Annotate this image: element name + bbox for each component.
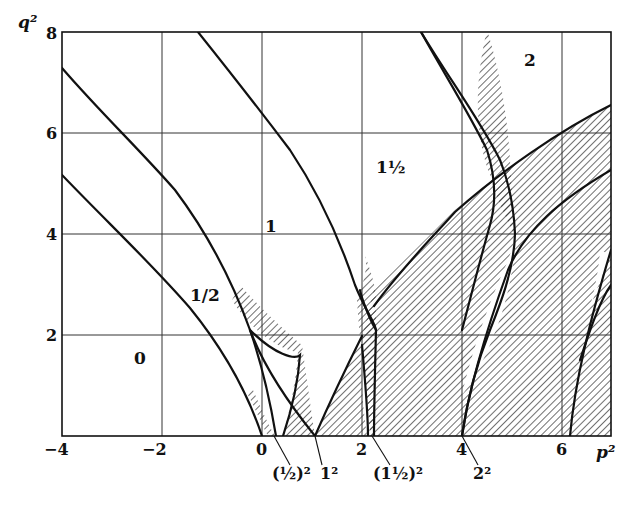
marker-1-squared: 1²	[320, 466, 338, 482]
x-axis-title: p²	[596, 444, 615, 461]
chart-canvas	[0, 0, 641, 506]
marker-1-5-squared: (1½)²	[373, 466, 423, 482]
region-label-half: 1/2	[190, 287, 220, 304]
y-tick-4: 4	[46, 227, 57, 243]
x-tick-6: 6	[556, 442, 567, 458]
region-label-1: 1	[265, 218, 277, 235]
x-tick-4: 4	[456, 442, 467, 458]
x-tick-neg2: −2	[142, 442, 167, 458]
x-tick-2: 2	[356, 442, 367, 458]
unstable-wedge-main	[315, 105, 611, 436]
marker-leaders	[274, 436, 478, 465]
y-axis-title: q²	[18, 14, 37, 31]
y-tick-2: 2	[46, 328, 57, 344]
region-label-0: 0	[134, 350, 146, 367]
marker-2-squared: 2²	[473, 466, 491, 482]
region-label-2: 2	[524, 52, 536, 69]
x-tick-neg4: −4	[44, 442, 69, 458]
y-tick-8: 8	[46, 26, 57, 42]
marker-half-squared: (½)²	[272, 466, 311, 482]
unstable-regions	[232, 30, 611, 436]
region-label-1-5: 1½	[376, 159, 406, 176]
curve-half	[62, 68, 276, 436]
stability-chart: q² 8 6 4 2 −4 −2 0 2 4 6 p² 0 1/2 1 1½ 2…	[0, 0, 641, 506]
unstable-band-1-upper	[232, 285, 302, 352]
x-tick-0: 0	[256, 442, 267, 458]
curve-1	[198, 32, 376, 330]
y-tick-6: 6	[46, 126, 57, 142]
